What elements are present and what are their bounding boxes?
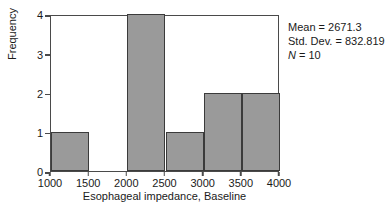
x-tick-label: 1000 xyxy=(38,177,62,189)
histogram-bar xyxy=(166,132,204,171)
x-tick-label: 2500 xyxy=(152,177,176,189)
n-symbol: N xyxy=(288,49,296,61)
x-axis-tick: 3000 xyxy=(190,172,214,189)
y-tick-label: 2 xyxy=(37,89,43,100)
y-tick-mark xyxy=(45,133,50,135)
histogram-bar xyxy=(204,93,242,172)
y-tick-mark xyxy=(45,94,50,96)
x-axis-tick: 1000 xyxy=(38,172,62,189)
histogram-bar xyxy=(51,132,89,171)
x-tick-label: 3000 xyxy=(190,177,214,189)
y-axis-title: Frequency xyxy=(6,0,18,94)
histogram-figure: 01234 Frequency 100015002000250030003500… xyxy=(0,0,387,221)
y-tick-label: 3 xyxy=(37,50,43,61)
y-tick-mark xyxy=(45,15,50,17)
x-axis-tick: 2000 xyxy=(114,172,138,189)
sample-size-text: N = 10 xyxy=(288,48,385,62)
y-tick-label: 4 xyxy=(37,10,43,21)
x-axis-tick: 4000 xyxy=(267,172,291,189)
y-axis-tick: 3 xyxy=(37,45,50,63)
y-tick-label: 1 xyxy=(37,128,43,139)
x-tick-mark xyxy=(164,172,166,176)
x-axis-title: Esophageal impedance, Baseline xyxy=(50,190,279,202)
y-axis-tick: 4 xyxy=(37,6,50,24)
x-tick-mark xyxy=(87,172,89,176)
x-tick-label: 1500 xyxy=(76,177,100,189)
y-tick-mark xyxy=(45,54,50,56)
x-axis-tick: 1500 xyxy=(76,172,100,189)
x-tick-mark xyxy=(240,172,242,176)
y-axis-tick: 2 xyxy=(37,85,50,103)
y-axis-tick: 1 xyxy=(37,124,50,142)
bar-series xyxy=(51,16,278,171)
x-axis-tick: 3500 xyxy=(229,172,253,189)
x-tick-mark xyxy=(49,172,51,176)
plot-area xyxy=(50,15,279,172)
histogram-bar xyxy=(242,93,280,172)
x-tick-mark xyxy=(278,172,280,176)
x-tick-label: 4000 xyxy=(267,177,291,189)
mean-text: Mean = 2671.3 xyxy=(288,20,385,34)
x-tick-mark xyxy=(202,172,204,176)
statistics-annotation: Mean = 2671.3 Std. Dev. = 832.819 N = 10 xyxy=(288,20,385,62)
histogram-bar xyxy=(127,14,165,171)
x-tick-mark xyxy=(126,172,128,176)
n-value: = 10 xyxy=(296,49,321,61)
x-axis-tick: 2500 xyxy=(152,172,176,189)
x-tick-label: 2000 xyxy=(114,177,138,189)
stddev-text: Std. Dev. = 832.819 xyxy=(288,34,385,48)
x-tick-label: 3500 xyxy=(229,177,253,189)
